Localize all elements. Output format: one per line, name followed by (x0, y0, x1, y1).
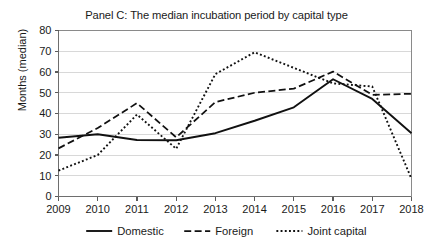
x-tick-label: 2010 (85, 203, 109, 215)
y-tick-label: 0 (45, 190, 51, 202)
y-tick-label: 80 (39, 24, 51, 36)
x-axis-ticks: 2009201020112012201320142015201620172018 (46, 197, 423, 216)
y-tick-label: 10 (39, 170, 51, 182)
x-tick-label: 2014 (242, 203, 266, 215)
y-tick-label: 20 (39, 149, 51, 161)
x-tick-label: 2013 (203, 203, 227, 215)
chart-legend: DomesticForeignJoint capital (86, 225, 366, 237)
legend-label-joint-capital: Joint capital (307, 225, 366, 237)
legend-label-domestic: Domestic (117, 225, 164, 237)
y-tick-label: 60 (39, 66, 51, 78)
y-tick-label: 40 (39, 107, 51, 119)
gridlines (59, 31, 412, 176)
x-tick-label: 2018 (399, 203, 423, 215)
x-tick-label: 2011 (125, 203, 149, 215)
y-tick-label: 70 (39, 45, 51, 57)
y-axis-ticks: 01020304050607080 (39, 24, 58, 202)
x-tick-label: 2017 (360, 203, 384, 215)
x-tick-label: 2009 (46, 203, 70, 215)
x-tick-label: 2016 (321, 203, 345, 215)
chart-panel: Panel C: The median incubation period by… (0, 0, 433, 246)
chart-plot-area: 01020304050607080 2009201020112012201320… (0, 0, 433, 246)
legend-label-foreign: Foreign (215, 225, 253, 237)
x-tick-label: 2015 (282, 203, 306, 215)
data-series (59, 52, 412, 179)
y-tick-label: 50 (39, 87, 51, 99)
y-tick-label: 30 (39, 128, 51, 140)
series-line-domestic (59, 79, 412, 140)
x-tick-label: 2012 (164, 203, 188, 215)
series-line-joint-capital (59, 52, 412, 179)
